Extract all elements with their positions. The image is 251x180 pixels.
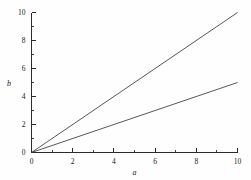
x-tick-label: 0 <box>30 157 34 166</box>
x-tick-label: 2 <box>71 157 75 166</box>
x-tick-label: 8 <box>194 157 198 166</box>
data-series <box>32 13 238 153</box>
axis-tick-labels: 02468100246810 <box>18 8 242 165</box>
y-tick-label: 6 <box>22 64 26 73</box>
line-chart: 02468100246810 ab <box>0 0 251 180</box>
y-tick-label: 8 <box>22 36 26 45</box>
series-line <box>32 13 238 153</box>
y-tick-label: 0 <box>22 148 26 157</box>
y-tick-label: 2 <box>22 120 26 129</box>
x-tick-label: 6 <box>153 157 157 166</box>
series-line <box>32 83 238 153</box>
y-tick-label: 4 <box>22 92 26 101</box>
x-tick-label: 4 <box>112 157 116 166</box>
x-axis-title: a <box>133 168 137 177</box>
y-tick-label: 10 <box>18 8 26 17</box>
y-axis-title: b <box>7 79 11 88</box>
chart-figure: 02468100246810 ab <box>0 0 251 180</box>
x-tick-label: 10 <box>234 157 242 166</box>
